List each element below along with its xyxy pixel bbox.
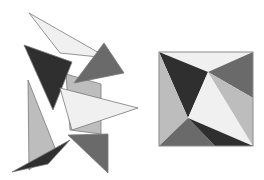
mid-dark-triangle-bottom (68, 134, 108, 173)
assembled-square-group (159, 52, 253, 146)
puzzle-canvas (0, 0, 264, 180)
scattered-pieces-group (12, 13, 138, 173)
